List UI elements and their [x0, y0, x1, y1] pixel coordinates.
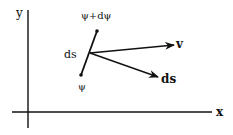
x-axis-label: x: [216, 105, 224, 119]
bottom-point: [79, 73, 83, 77]
diagram-svg: y x ψ+dψ ψ ds v ds: [0, 0, 233, 135]
top-point: [95, 29, 99, 33]
velocity-vector: [90, 45, 174, 53]
ds-segment-label: ds: [64, 48, 77, 61]
velocity-label: v: [175, 37, 184, 51]
ds-vector: [90, 53, 158, 77]
psi-plus-dpsi-label: ψ+dψ: [81, 10, 112, 21]
streamline-diagram: y x ψ+dψ ψ ds v ds: [0, 0, 233, 135]
y-axis-label: y: [15, 6, 23, 20]
ds-vector-label: ds: [161, 72, 176, 86]
psi-label: ψ: [78, 81, 86, 92]
